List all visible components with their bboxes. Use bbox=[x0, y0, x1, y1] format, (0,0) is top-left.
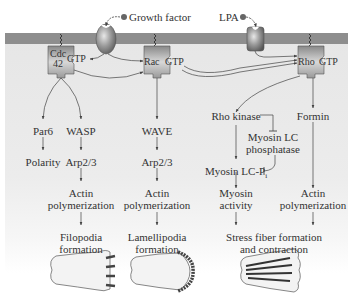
stress-fiber-cell-icon bbox=[241, 249, 301, 292]
filopodia-cell-icon bbox=[51, 251, 115, 291]
filopodia-formation-label: formation bbox=[59, 243, 102, 255]
wave-label: WAVE bbox=[142, 125, 172, 137]
myosin-activity-label: activity bbox=[220, 199, 253, 211]
lamellipodia-cell-icon bbox=[131, 252, 193, 291]
pathway-diagram bbox=[0, 0, 355, 302]
rho-gtp-label: GTP bbox=[319, 56, 338, 68]
lpa-receptor-icon bbox=[247, 27, 264, 51]
polymerization-label-rho: polymerization bbox=[280, 199, 347, 211]
myosin-label: Myosin bbox=[219, 187, 253, 199]
par6-label: Par6 bbox=[33, 125, 53, 137]
lamellipodia-formation-label: formation bbox=[135, 243, 178, 255]
formin-label: Formin bbox=[297, 110, 329, 122]
arp23-label-cdc42: Arp2/3 bbox=[65, 156, 96, 168]
myosin-lc-phosphatase-label-line1: Myosin LC bbox=[248, 131, 298, 143]
growth-factor-ligand-icon bbox=[121, 14, 127, 20]
rac-gtp-label: GTP bbox=[165, 56, 184, 68]
actin-label-rac: Actin bbox=[145, 187, 169, 199]
lpa-label: LPA bbox=[219, 11, 239, 23]
lamellipodia-label: Lamellipodia bbox=[128, 231, 187, 243]
cdc42-label-line2: 42 bbox=[53, 58, 63, 70]
filopodia-label: Filopodia bbox=[60, 231, 102, 243]
myosin-lcp-label: Myosin LC-Pi bbox=[205, 165, 267, 182]
growth-factor-receptor-icon bbox=[96, 24, 116, 54]
myosin-lc-phosphatase-label-line2: phosphatase bbox=[246, 143, 300, 155]
growth-factor-label: Growth factor bbox=[129, 11, 191, 23]
actin-label-rho: Actin bbox=[301, 187, 325, 199]
polarity-label: Polarity bbox=[26, 156, 61, 168]
polymerization-label-cdc42: polymerization bbox=[48, 199, 115, 211]
lpa-ligand-icon bbox=[240, 14, 246, 20]
wasp-label: WASP bbox=[66, 125, 95, 137]
rho-kinase-label: Rho kinase bbox=[211, 110, 260, 122]
arp23-label-rac: Arp2/3 bbox=[141, 156, 172, 168]
rac-label: Rac bbox=[144, 56, 160, 68]
polymerization-label-rac: polymerization bbox=[124, 199, 191, 211]
cdc42-gtp-label: GTP bbox=[67, 53, 86, 65]
rho-label: Rho bbox=[298, 56, 315, 68]
actin-label-cdc42: Actin bbox=[69, 187, 93, 199]
contraction-label: and contraction bbox=[240, 243, 308, 255]
stress-fiber-label: Stress fiber formation bbox=[226, 231, 322, 243]
